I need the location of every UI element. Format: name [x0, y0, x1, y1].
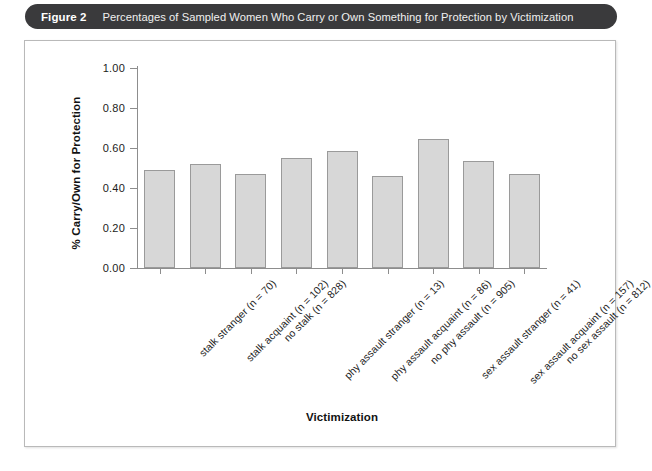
x-tick-mark: [251, 269, 252, 274]
y-tick-label: 0.40: [103, 182, 125, 194]
figure-title: Percentages of Sampled Women Who Carry o…: [103, 11, 574, 23]
x-tick-mark: [342, 269, 343, 274]
x-tick-mark: [160, 269, 161, 274]
y-tick-label: 1.00: [103, 62, 125, 74]
bar: [509, 174, 540, 268]
bar: [190, 164, 221, 268]
y-axis-line: [137, 66, 138, 269]
y-tick-mark: [130, 108, 137, 109]
x-tick-mark: [479, 269, 480, 274]
bar: [235, 174, 266, 268]
bar: [418, 139, 449, 268]
y-tick-mark: [130, 228, 137, 229]
bar: [372, 176, 403, 268]
y-tick-mark: [130, 68, 137, 69]
y-tick-label: 0.00: [103, 262, 125, 274]
plot-area: % Carry/Own for Protection 0.000.200.400…: [25, 41, 615, 446]
y-axis-title: % Carry/Own for Protection: [70, 73, 82, 273]
x-axis-title: Victimization: [137, 411, 547, 423]
y-tick-mark: [130, 148, 137, 149]
x-tick-mark: [388, 269, 389, 274]
y-tick-mark: [130, 268, 137, 269]
x-tick-mark: [296, 269, 297, 274]
bar: [144, 170, 175, 268]
figure-caption-bar: Figure 2 Percentages of Sampled Women Wh…: [25, 4, 617, 29]
y-tick-label: 0.60: [103, 142, 125, 154]
x-tick-mark: [205, 269, 206, 274]
bar: [327, 151, 358, 268]
x-tick-label: sex assault acquaint (n = 157): [526, 277, 635, 386]
figure-number: Figure 2: [41, 11, 87, 23]
y-tick-label: 0.20: [103, 222, 125, 234]
x-tick-mark: [433, 269, 434, 274]
x-tick-mark: [524, 269, 525, 274]
y-tick-label: 0.80: [103, 102, 125, 114]
bar: [281, 158, 312, 268]
y-tick-mark: [130, 188, 137, 189]
chart-panel: % Carry/Own for Protection 0.000.200.400…: [24, 40, 616, 447]
x-tick-label: phy assault acquaint (n = 86): [388, 277, 493, 382]
bar: [463, 161, 494, 268]
